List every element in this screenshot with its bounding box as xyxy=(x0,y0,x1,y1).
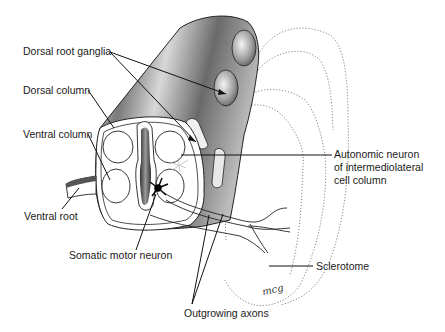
label-ventral-root: Ventral root xyxy=(24,210,78,223)
dorsal-column-right xyxy=(155,131,185,163)
label-autonomic-neuron-line3: cell column xyxy=(334,174,387,187)
label-dorsal-column: Dorsal column xyxy=(23,84,90,97)
spinal-cord-diagram: Dorsal root ganglia Dorsal column Ventra… xyxy=(0,0,445,332)
label-autonomic-neuron-line2: of intermediolateral xyxy=(334,161,423,174)
ventral-root xyxy=(66,176,96,198)
label-ventral-column: Ventral column xyxy=(23,128,92,141)
label-sclerotome: Sclerotome xyxy=(316,260,369,273)
dorsal-column-left xyxy=(103,131,133,163)
label-dorsal-root-ganglia: Dorsal root ganglia xyxy=(23,45,111,58)
ventral-column-left xyxy=(102,169,130,203)
label-somatic-motor-neuron: Somatic motor neuron xyxy=(69,249,172,262)
label-outgrowing-axons: Outgrowing axons xyxy=(184,307,269,320)
label-autonomic-neuron-line1: Autonomic neuron xyxy=(334,148,419,161)
